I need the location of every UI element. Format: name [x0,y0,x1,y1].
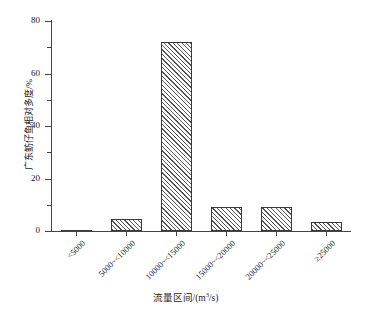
bar [211,207,242,231]
y-tick-label: 0 [0,225,40,235]
chart-figure: 广东鲂仔鱼相对多度/% 020406080 <50005000~<1000010… [0,0,371,313]
y-tick-label: 40 [0,120,40,130]
x-tick [226,231,227,236]
bar [111,219,142,231]
x-tick [326,231,327,236]
x-axis-title-suffix: /s) [209,293,219,303]
x-axis-line [51,231,351,232]
x-tick [176,231,177,236]
y-tick-label: 80 [0,15,40,25]
y-tick-label: 20 [0,173,40,183]
bar [311,222,342,231]
plot-area [51,21,351,231]
x-tick [76,231,77,236]
x-tick-label: ≥25000 [283,238,337,292]
x-axis-title: 流量区间/(m3/s) [0,290,371,304]
x-tick [276,231,277,236]
y-tick-major [45,231,51,232]
bar [261,207,292,231]
x-tick-label: 20000~<25000 [233,238,287,292]
x-tick-label: <5000 [33,238,87,292]
x-tick-label: 10000~<15000 [133,238,187,292]
x-tick-label: 15000~<20000 [183,238,237,292]
bar [161,42,192,231]
x-tick-label: 5000~<10000 [83,238,137,292]
x-axis-title-prefix: 流量区间/(m [153,293,206,303]
y-tick-label: 60 [0,68,40,78]
x-tick [126,231,127,236]
